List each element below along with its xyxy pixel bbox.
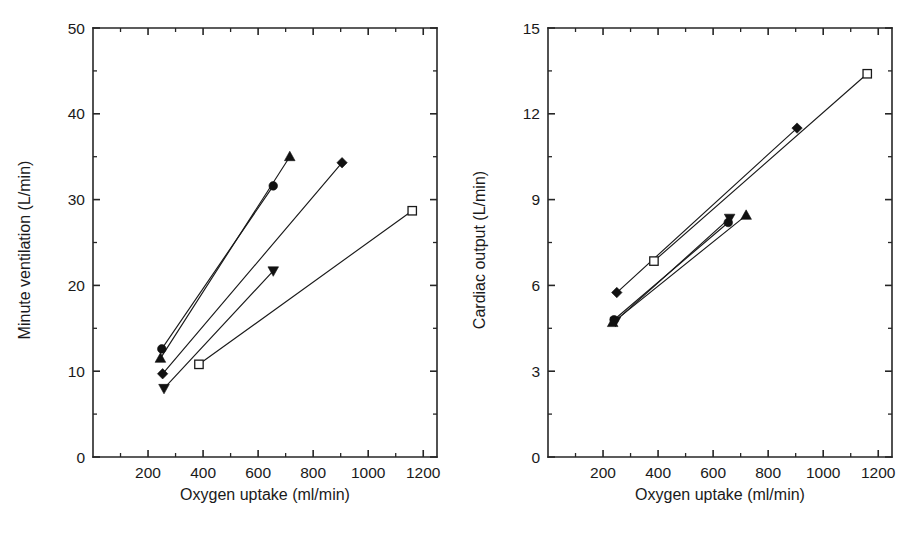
- y-tick-label-left: 50: [68, 20, 86, 37]
- y-tick-label-left: 0: [76, 449, 85, 466]
- x-tick-label-left: 200: [135, 464, 161, 481]
- panel-cardiac-output: 2004006008001000120003691215 Oxygen upta…: [455, 0, 910, 533]
- x-tick-label-left: 400: [190, 464, 216, 481]
- y-tick-label-right: 6: [531, 277, 540, 294]
- panel-left-svg: 2004006008001000120001020304050 Oxygen u…: [0, 0, 455, 533]
- data-marker-triangle-down-filled: [159, 384, 170, 394]
- series-line-filled-diamond-left: [163, 163, 342, 374]
- y-tick-label-right: 3: [531, 363, 540, 380]
- series-line-open-square-right: [654, 74, 867, 261]
- data-marker-square-open: [863, 70, 871, 78]
- x-tick-label-left: 1000: [351, 464, 386, 481]
- x-axis-title-left: Oxygen uptake (ml/min): [180, 486, 350, 503]
- data-marker-circle-filled: [269, 182, 278, 191]
- y-tick-label-left: 40: [68, 105, 86, 122]
- x-tick-label-right: 200: [590, 464, 616, 481]
- series-line-filled-triangle-down-left: [164, 271, 273, 389]
- data-marker-square-open: [195, 360, 203, 368]
- y-tick-label-right: 9: [531, 191, 540, 208]
- x-tick-label-left: 1200: [406, 464, 441, 481]
- panel-minute-ventilation: 2004006008001000120001020304050 Oxygen u…: [0, 0, 455, 533]
- data-marker-triangle-up-filled: [155, 353, 166, 363]
- data-marker-triangle-up-filled: [741, 210, 752, 220]
- y-tick-label-right: 12: [523, 105, 540, 122]
- x-tick-label-right: 600: [700, 464, 726, 481]
- data-marker-square-open: [408, 207, 416, 215]
- y-tick-label-left: 10: [68, 363, 86, 380]
- figure-two-panel-scatter-line: 2004006008001000120001020304050 Oxygen u…: [0, 0, 910, 533]
- panel-right-svg: 2004006008001000120003691215 Oxygen upta…: [455, 0, 910, 533]
- y-tick-label-right: 15: [523, 20, 540, 37]
- x-tick-label-right: 1200: [861, 464, 896, 481]
- series-line-filled-diamond-right: [617, 128, 797, 292]
- x-tick-label-right: 800: [755, 464, 781, 481]
- series-line-filled-triangle-up-right: [613, 215, 746, 322]
- series-line-filled-triangle-down-right: [615, 218, 729, 321]
- x-tick-label-right: 1000: [806, 464, 841, 481]
- y-tick-label-right: 0: [531, 449, 540, 466]
- x-tick-label-right: 400: [645, 464, 671, 481]
- x-tick-label-left: 800: [300, 464, 326, 481]
- data-marker-square-open: [650, 257, 658, 265]
- data-marker-triangle-up-filled: [284, 151, 295, 161]
- series-line-filled-circle-left: [162, 186, 273, 349]
- y-tick-label-left: 20: [68, 277, 86, 294]
- y-axis-title-left: Minute ventilation (L/min): [16, 161, 33, 340]
- series-line-open-square-left: [199, 211, 412, 365]
- y-axis-title-right: Cardiac output (L/min): [471, 171, 488, 329]
- x-axis-title-right: Oxygen uptake (ml/min): [635, 486, 805, 503]
- x-tick-label-left: 600: [245, 464, 271, 481]
- data-marker-circle-filled: [158, 345, 167, 354]
- y-tick-label-left: 30: [68, 191, 86, 208]
